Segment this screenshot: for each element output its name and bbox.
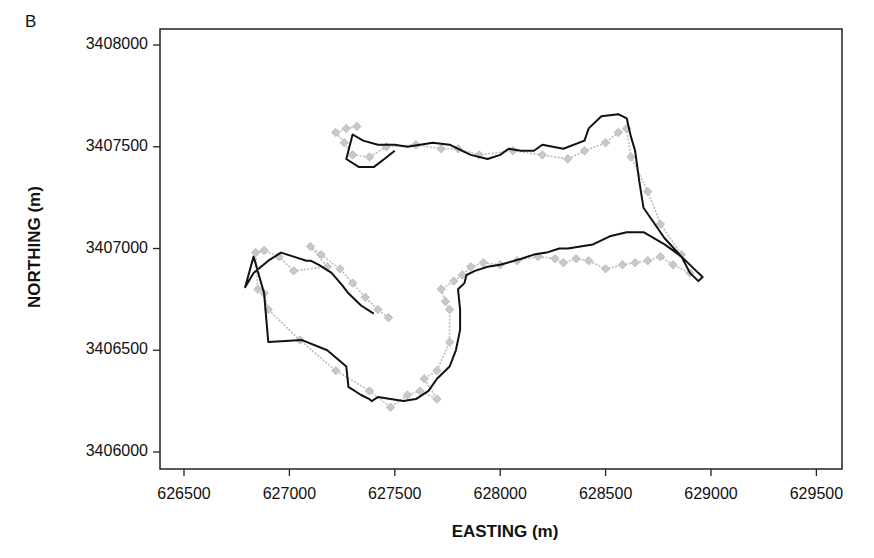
diamond-marker: [644, 187, 652, 195]
x-axis-title: EASTING (m): [380, 522, 630, 542]
diamond-marker: [348, 151, 356, 159]
x-tick-label: 626500: [139, 485, 229, 503]
y-tick-label: 3408000: [38, 35, 148, 53]
diamond-marker: [450, 277, 458, 285]
diamond-marker: [441, 297, 449, 305]
diamond-marker: [559, 259, 567, 267]
diamond-marker: [251, 248, 259, 256]
diamond-marker: [445, 305, 453, 313]
x-tick-label: 629500: [771, 485, 861, 503]
x-tick-label: 627000: [244, 485, 334, 503]
x-tick-label: 629000: [666, 485, 756, 503]
diamond-marker: [551, 254, 559, 262]
diamond-marker: [332, 366, 340, 374]
diamond-marker: [644, 257, 652, 265]
diamond-marker: [353, 122, 361, 130]
track-plot: [0, 0, 874, 558]
diamond-marker: [479, 259, 487, 267]
diamond-marker: [572, 254, 580, 262]
diamond-marker: [466, 263, 474, 271]
diamond-marker: [601, 265, 609, 273]
diamond-marker: [433, 366, 441, 374]
diamond-marker: [627, 153, 635, 161]
diamond-marker: [260, 246, 268, 254]
diamond-marker: [445, 338, 453, 346]
diamond-marker: [669, 261, 677, 269]
y-tick-label: 3406000: [38, 442, 148, 460]
y-tick-label: 3407500: [38, 137, 148, 155]
diamond-marker: [437, 145, 445, 153]
y-tick-label: 3407000: [38, 239, 148, 257]
diamond-marker: [631, 259, 639, 267]
plot-series: [245, 114, 702, 411]
diamond-marker: [437, 285, 445, 293]
y-axis-title: NORTHING (m): [25, 122, 45, 372]
diamond-marker: [289, 267, 297, 275]
diamond-marker: [340, 138, 348, 146]
diamond-marker: [585, 257, 593, 265]
diamond-marker: [342, 124, 350, 132]
x-tick-label: 627500: [350, 485, 440, 503]
diamond-marker: [420, 375, 428, 383]
diamond-marker: [618, 261, 626, 269]
diamond-marker: [656, 252, 664, 260]
x-tick-label: 628000: [455, 485, 545, 503]
diamond-marker: [433, 395, 441, 403]
diamond-marker: [580, 147, 588, 155]
diamond-marker: [601, 138, 609, 146]
diamond-marker: [538, 151, 546, 159]
y-tick-label: 3406500: [38, 340, 148, 358]
diamond-marker: [365, 153, 373, 161]
x-tick-label: 628500: [561, 485, 651, 503]
diamond-marker: [563, 155, 571, 163]
